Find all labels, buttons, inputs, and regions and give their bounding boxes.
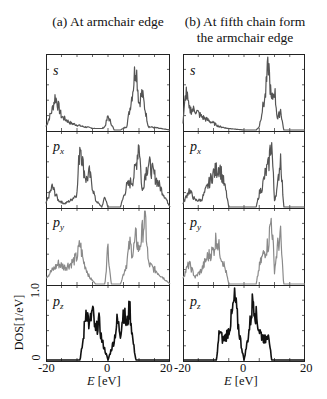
x-tick-b-max: 20 [300,362,313,375]
y-tick-bottom: 0 [29,355,44,361]
column-a-plots [46,54,170,361]
panel-a-title: (a) At armchair edge [46,14,170,30]
column-a-svg [46,54,170,361]
panel-b-title-line1: (b) At fifth chain form [176,14,314,30]
label-a-pz: pz [53,295,64,313]
y-tick-top: 1.0 [28,283,43,298]
dos-panel-s [46,54,170,132]
label-a-py: py [53,216,64,234]
x-axis-label-a: E [eV] [87,374,121,388]
dos-panel-py [46,208,170,286]
label-b-py: py [190,216,201,234]
dos-panel-py [183,208,305,286]
x-tick-b-min: -20 [174,362,191,375]
y-axis-label: DOS[1/eV] [12,288,27,358]
x-tick-a-min: -20 [38,362,55,375]
label-b-s: s [190,64,195,82]
dos-panel-s [183,54,305,132]
dos-panel-px [183,131,305,209]
panel-b-title: (b) At fifth chain form the armchair edg… [176,14,314,46]
label-a-s: s [53,64,58,82]
dos-panel-pz [183,285,305,362]
label-b-px: px [190,140,201,158]
label-a-px: px [53,140,64,158]
column-b-plots [183,54,305,361]
dos-panel-px [46,131,170,209]
column-b-svg [183,54,305,361]
label-b-pz: pz [190,295,201,313]
dos-panel-pz [46,285,170,362]
x-tick-a-max: 20 [160,362,173,375]
panel-b-title-line2: the armchair edge [176,30,314,46]
x-axis-label-b: E [eV] [224,374,258,388]
